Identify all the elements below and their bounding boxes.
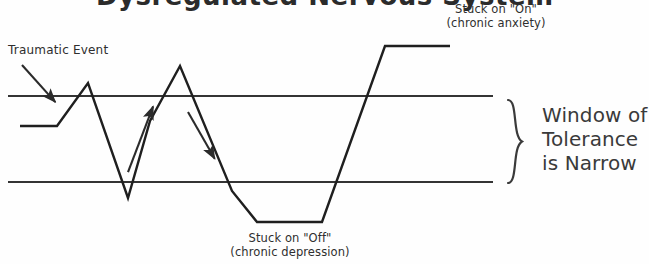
stuck-off-label-line1: Stuck on "Off" bbox=[249, 232, 332, 246]
window-of-tolerance-label-line3: is Narrow bbox=[542, 151, 637, 175]
figure-canvas: Dysregulated Nervous System Traumatic Ev… bbox=[0, 0, 649, 264]
window-of-tolerance-label-line2: Tolerance bbox=[542, 127, 638, 151]
arousal-waveform bbox=[20, 46, 450, 222]
stuck-on-label-line1: Stuck on "On" bbox=[455, 3, 537, 17]
window-of-tolerance-brace bbox=[508, 100, 522, 183]
traumatic-event-label: Traumatic Event bbox=[8, 43, 108, 57]
window-of-tolerance-label-line1: Window of bbox=[542, 103, 647, 127]
stuck-on-label-line2: (chronic anxiety) bbox=[447, 17, 546, 31]
hyperarousal-arrow bbox=[128, 106, 153, 172]
stuck-off-label-line2: (chronic depression) bbox=[230, 246, 349, 260]
